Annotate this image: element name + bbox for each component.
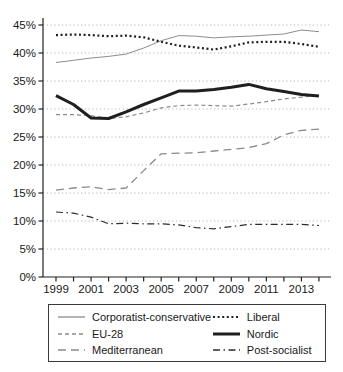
series-line-nordic (56, 84, 319, 118)
x-tick-label: 1999 (43, 283, 69, 295)
y-tick-label: 10% (13, 215, 36, 227)
x-tick-label: 2001 (78, 283, 104, 295)
x-tick-label: 2003 (113, 283, 139, 295)
y-tick-label: 30% (13, 103, 36, 115)
x-tick-label: 2013 (289, 283, 315, 295)
x-tick-label: 2011 (254, 283, 279, 295)
legend-item-nordic: Nordic (213, 328, 316, 340)
series-line-corporatist-conservative (56, 30, 319, 63)
legend-label-eu-28: EU-28 (92, 328, 123, 340)
series-line-liberal (56, 35, 319, 50)
y-tick-label: 15% (13, 187, 36, 199)
series-line-eu-28 (56, 95, 319, 119)
post-socialist-line-sample (213, 345, 240, 355)
chart-page: 0%5%10%15%20%25%30%35%40%45%199920012003… (0, 0, 343, 372)
legend-label-nordic: Nordic (247, 328, 279, 340)
y-tick-label: 20% (13, 159, 36, 171)
legend-item-eu-28: EU-28 (58, 328, 213, 340)
corporatist-conservative-line-sample (58, 312, 85, 322)
legend-item-corporatist-conservative: Corporatist-conservative (58, 311, 213, 323)
liberal-line-sample (213, 312, 240, 322)
x-tick-label: 2007 (183, 283, 209, 295)
series-line-mediterranean (56, 129, 319, 190)
y-tick-label: 40% (13, 47, 36, 59)
y-tick-label: 45% (13, 19, 36, 31)
legend-label-mediterranean: Mediterranean (92, 344, 163, 356)
line-chart: 0%5%10%15%20%25%30%35%40%45%199920012003… (0, 0, 343, 298)
legend-item-mediterranean: Mediterranean (58, 344, 213, 356)
legend-label-liberal: Liberal (247, 311, 280, 323)
eu-28-line-sample (58, 329, 85, 339)
mediterranean-line-sample (58, 345, 85, 355)
y-tick-label: 35% (13, 75, 36, 87)
y-tick-label: 25% (13, 131, 36, 143)
legend-box: Corporatist-conservative Liberal EU-28 N… (48, 304, 326, 362)
y-tick-label: 0% (19, 271, 36, 283)
series-line-post-socialist (56, 212, 319, 229)
legend-item-liberal: Liberal (213, 311, 316, 323)
nordic-line-sample (213, 329, 240, 339)
legend-label-post-socialist: Post-socialist (247, 344, 312, 356)
legend-item-post-socialist: Post-socialist (213, 344, 316, 356)
legend-label-corporatist-conservative: Corporatist-conservative (92, 311, 211, 323)
x-tick-label: 2009 (219, 283, 245, 295)
x-tick-label: 2005 (148, 283, 174, 295)
y-tick-label: 5% (19, 243, 36, 255)
